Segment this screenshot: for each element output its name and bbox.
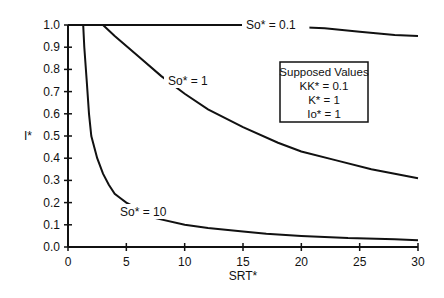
legend-entry: KK* = 0.1	[300, 80, 349, 92]
y-tick-label: 0.8	[43, 62, 60, 76]
y-tick-label: 0.0	[43, 240, 60, 254]
chart: 0510152025300.00.10.20.30.40.50.60.70.80…	[0, 0, 444, 298]
legend-title: Supposed Values	[279, 66, 369, 78]
chart-svg: 0510152025300.00.10.20.30.40.50.60.70.80…	[0, 0, 444, 298]
y-tick-label: 0.6	[43, 107, 60, 121]
y-tick-label: 0.1	[43, 218, 60, 232]
x-tick-label: 10	[178, 255, 192, 269]
y-tick-label: 0.4	[43, 151, 60, 165]
series-annotation: So* = 0.1	[246, 18, 296, 32]
x-tick-label: 0	[65, 255, 72, 269]
x-axis-label: SRT*	[229, 269, 258, 283]
y-axis-label: I*	[24, 129, 32, 143]
y-tick-label: 0.7	[43, 85, 60, 99]
series-annotation: So* = 10	[120, 205, 167, 219]
series-annotation: So* = 1	[168, 74, 208, 88]
series-line	[103, 25, 418, 178]
y-tick-label: 0.5	[43, 129, 60, 143]
legend-entry: Io* = 1	[307, 108, 341, 120]
x-tick-label: 20	[295, 255, 309, 269]
x-tick-label: 15	[236, 255, 250, 269]
x-tick-label: 5	[123, 255, 130, 269]
y-tick-label: 1.0	[43, 18, 60, 32]
legend-entry: K* = 1	[308, 94, 340, 106]
y-tick-label: 0.9	[43, 40, 60, 54]
x-tick-label: 30	[411, 255, 425, 269]
y-tick-label: 0.2	[43, 196, 60, 210]
x-tick-label: 25	[353, 255, 367, 269]
y-tick-label: 0.3	[43, 173, 60, 187]
